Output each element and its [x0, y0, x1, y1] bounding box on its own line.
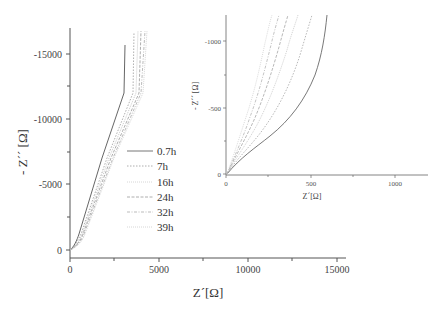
- inset-x-tick-1: 500: [306, 180, 317, 188]
- legend-item-0.7h: 0.7h: [127, 145, 177, 157]
- legend-item-16h: 16h: [127, 176, 174, 188]
- legend-label: 16h: [157, 176, 174, 188]
- inset-y-tick-0: 0: [218, 171, 222, 179]
- x-tick-3: 15000: [325, 264, 350, 275]
- inset-chart: 0 -500 -1000 0 500 1000 Z´[Ω] - Z´´ [Ω]: [191, 15, 428, 201]
- series-16h: [70, 31, 138, 250]
- y-tick-2: -10000: [34, 114, 62, 125]
- x-tick-0: 0: [68, 264, 73, 275]
- legend-label: 0.7h: [157, 145, 177, 157]
- inset-x-tick-2: 1000: [388, 180, 403, 188]
- x-tick-2: 10000: [236, 264, 261, 275]
- legend-item-7h: 7h: [127, 160, 169, 172]
- x-axis-label: Z´[Ω]: [193, 285, 224, 300]
- legend-label: 39h: [157, 221, 174, 233]
- x-tick-1: 5000: [149, 264, 169, 275]
- series-39h: [70, 31, 147, 250]
- inset-series-7h: [227, 15, 312, 174]
- y-axis-label: - Z´´ [Ω]: [15, 129, 30, 175]
- legend-label: 32h: [157, 206, 174, 218]
- legend: 0.7h 7h 16h 24h 32h 39h: [127, 145, 177, 233]
- inset-y-tick-2: -1000: [205, 38, 222, 46]
- legend-item-32h: 32h: [127, 206, 174, 218]
- y-tick-1: -5000: [39, 179, 62, 190]
- main-axes: [66, 28, 346, 262]
- inset-y-tick-1: -500: [208, 105, 221, 113]
- legend-label: 24h: [157, 191, 174, 203]
- main-x-tick-labels: 0 5000 10000 15000: [68, 264, 350, 275]
- main-series: [70, 31, 147, 250]
- y-tick-0: 0: [57, 245, 62, 256]
- legend-label: 7h: [157, 160, 169, 172]
- inset-series-16h: [227, 15, 298, 174]
- inset-series-32h: [227, 15, 279, 174]
- inset-series: [227, 15, 327, 174]
- inset-x-tick-0: 0: [224, 180, 228, 188]
- legend-item-24h: 24h: [127, 191, 174, 203]
- chart-canvas: 0 -5000 -10000 -15000 0 5000 10000 15000…: [0, 0, 444, 310]
- inset-series-39h: [227, 15, 272, 174]
- series-24h: [70, 31, 141, 250]
- legend-item-39h: 39h: [127, 221, 174, 233]
- series-0.7h: [70, 45, 125, 250]
- y-tick-3: -15000: [34, 49, 62, 60]
- inset-y-axis-label: - Z´´ [Ω]: [191, 82, 200, 110]
- main-y-tick-labels: 0 -5000 -10000 -15000: [34, 49, 62, 256]
- inset-x-axis-label: Z´[Ω]: [303, 192, 322, 201]
